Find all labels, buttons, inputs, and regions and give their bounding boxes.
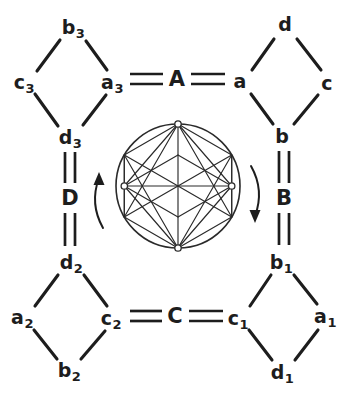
vertex-label-a2: a2 — [11, 308, 33, 327]
vertex-label-a: a — [234, 72, 247, 91]
edge-c3-d3 — [35, 94, 58, 126]
vertex-label-c2: c2 — [101, 309, 121, 328]
edge-b1-a1 — [294, 275, 317, 304]
vertex-label-c1: c1 — [228, 309, 248, 328]
edge-d1-a1 — [295, 330, 318, 360]
vertex-label-d2: d2 — [60, 253, 83, 272]
right-rotation-arrow — [250, 166, 261, 223]
edge-a-b — [251, 94, 273, 124]
vertex-label-a1: a1 — [314, 307, 336, 326]
relation-label-D: D — [61, 188, 78, 209]
center-graph — [116, 121, 240, 251]
edge-a2-d2 — [35, 275, 58, 306]
relation-label-A: A — [169, 69, 185, 90]
edge-b3-a3 — [86, 41, 107, 70]
center-graph-chords — [124, 124, 231, 248]
edge-a-d — [252, 39, 274, 70]
center-node-bottom — [175, 245, 181, 251]
center-node-right — [229, 183, 235, 189]
vertex-label-b2: b2 — [58, 361, 81, 380]
edge-c3-b3 — [37, 40, 60, 71]
edge-a2-b2 — [34, 330, 57, 359]
diamond-bottom-left-edges — [34, 275, 107, 359]
vertex-label-b3: b3 — [62, 18, 85, 37]
relation-label-B: B — [276, 188, 292, 209]
edge-d3-a3 — [83, 95, 106, 125]
edge-c1-b1 — [250, 275, 271, 306]
relation-label-C: C — [167, 306, 182, 327]
diamond-top-left-edges — [35, 40, 107, 126]
diamond-bottom-right-edges — [249, 275, 318, 360]
vertex-label-d3: d3 — [59, 128, 82, 147]
vertex-label-a3: a3 — [101, 73, 123, 92]
edges-layer — [0, 0, 350, 394]
figure-canvas: b3 c3 a3 d3 d a c b d2 a2 c2 b2 b1 c1 a1 — [0, 0, 350, 394]
vertex-label-b1: b1 — [270, 253, 293, 272]
vertex-label-c: c — [321, 74, 332, 93]
edge-d2-c2 — [84, 275, 107, 306]
vertex-label-b: b — [275, 127, 289, 146]
edge-b-c — [294, 95, 318, 124]
edge-b2-c2 — [81, 331, 105, 359]
vertex-label-d1: d1 — [271, 363, 294, 382]
diamond-top-right-edges — [251, 39, 321, 124]
center-node-top — [175, 121, 181, 127]
edge-c1-d1 — [249, 330, 272, 360]
vertex-label-c3: c3 — [14, 73, 34, 92]
center-node-left — [121, 183, 127, 189]
left-rotation-arrow — [94, 172, 105, 228]
edge-d-c — [297, 39, 321, 70]
vertex-label-d: d — [278, 15, 292, 34]
